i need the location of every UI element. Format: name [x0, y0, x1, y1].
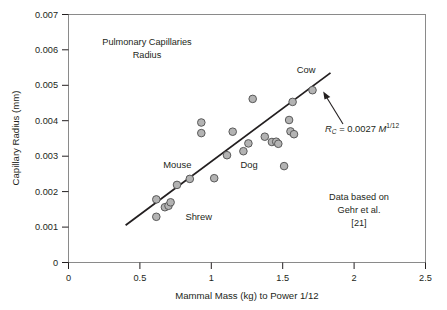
- point-label-cow: Cow: [297, 64, 316, 75]
- x-tick-label: 2.5: [419, 273, 432, 283]
- x-axis-tick-labels: 0 0.5 1 1.5 2 2.5: [66, 273, 432, 283]
- data-point: [261, 133, 269, 141]
- data-point: [153, 213, 161, 221]
- data-point: [229, 128, 237, 136]
- point-label-dog: Dog: [240, 159, 257, 170]
- data-point: [223, 151, 231, 159]
- data-point: [249, 95, 257, 103]
- eq-middle: = 0.0027: [337, 123, 379, 134]
- y-axis-title: Capillary Radius (mm): [10, 91, 21, 186]
- scatter-plot-svg: 0 0.001 0.002 0.003 0.004 0.005 0.006 0.…: [0, 0, 447, 310]
- y-tick-label: 0.003: [35, 151, 58, 161]
- y-tick-label: 0.004: [35, 116, 58, 126]
- y-axis-ticks: [62, 15, 69, 263]
- data-point: [240, 147, 248, 155]
- x-tick-label: 0.5: [134, 273, 147, 283]
- x-tick-label: 1: [209, 273, 214, 283]
- x-tick-label: 1.5: [276, 273, 289, 283]
- data-point: [309, 86, 317, 94]
- chart-title-line2: Radius: [133, 50, 162, 60]
- data-point: [245, 140, 253, 148]
- y-axis-tick-labels: 0 0.001 0.002 0.003 0.004 0.005 0.006 0.…: [35, 10, 58, 268]
- y-tick-label: 0.006: [35, 45, 58, 55]
- data-point: [198, 129, 206, 137]
- y-tick-label: 0.002: [35, 187, 58, 197]
- eq-m-symbol: M: [379, 123, 387, 134]
- data-point: [186, 175, 194, 183]
- data-point: [275, 140, 283, 148]
- data-point: [153, 196, 161, 204]
- data-point: [167, 199, 175, 207]
- y-tick-label: 0.001: [35, 222, 58, 232]
- point-label-mouse: Mouse: [163, 159, 191, 170]
- scatter-points: [153, 86, 317, 220]
- data-point: [285, 116, 293, 124]
- chart-title-line1: Pulmonary Capillaries: [102, 37, 192, 47]
- y-tick-label: 0.007: [35, 10, 58, 20]
- x-axis-title: Mammal Mass (kg) to Power 1/12: [175, 290, 318, 301]
- eq-exponent: 1/12: [386, 122, 399, 129]
- data-point: [290, 130, 298, 138]
- equation-callout-arrow: [323, 92, 343, 124]
- source-note-line1: Data based on: [329, 192, 389, 202]
- y-tick-label: 0.005: [35, 80, 58, 90]
- x-tick-label: 0: [66, 273, 71, 283]
- data-point: [280, 162, 288, 170]
- data-point: [173, 181, 181, 189]
- data-point: [210, 174, 218, 182]
- fit-equation: RC = 0.0027 M1/12: [325, 122, 399, 135]
- x-axis-ticks: [69, 263, 426, 270]
- chart-figure: 0 0.001 0.002 0.003 0.004 0.005 0.006 0.…: [0, 0, 447, 310]
- data-point: [198, 119, 206, 127]
- plot-frame: [69, 15, 426, 263]
- source-note-line3: [21]: [351, 218, 366, 228]
- y-tick-label: 0: [53, 258, 58, 268]
- data-point: [289, 98, 297, 106]
- point-label-shrew: Shrew: [185, 211, 212, 222]
- source-note-line2: Gehr et al.: [338, 205, 381, 215]
- x-tick-label: 2: [352, 273, 357, 283]
